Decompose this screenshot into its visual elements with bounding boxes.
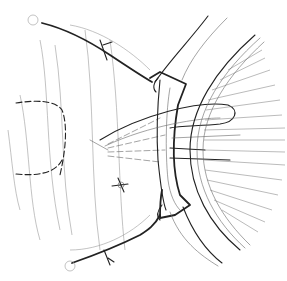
globe [190, 35, 285, 250]
surgical-illustration [0, 0, 287, 281]
lower-strands [170, 207, 222, 266]
illustration-drawing [0, 0, 287, 281]
dashed-traction-lines [16, 101, 165, 175]
upper-suture [28, 15, 152, 82]
lower-suture [65, 215, 160, 271]
scleral-flap [150, 72, 190, 220]
tissue-sketch-lines [8, 25, 150, 250]
upper-strands [155, 16, 227, 82]
